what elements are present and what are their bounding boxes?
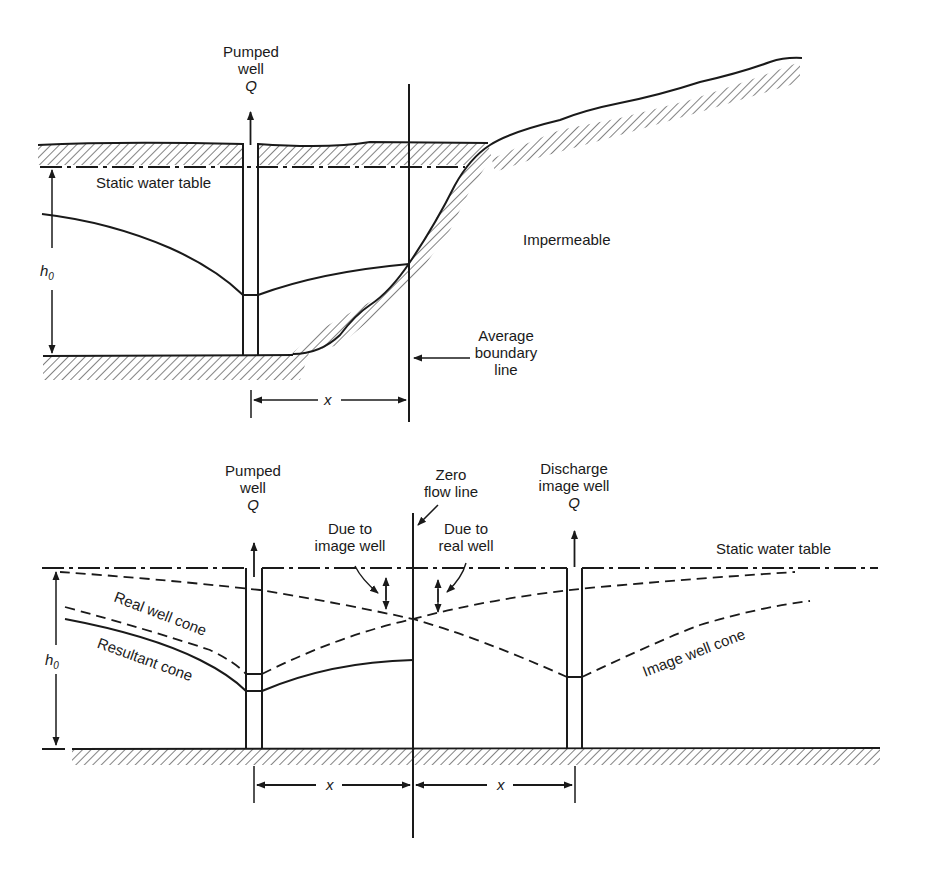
h-subscript: 0 [48,271,54,282]
label-line: Pumped [220,462,286,479]
hill-hatch [290,62,800,355]
discharge-q: Q [220,496,286,513]
top-pumped-well-label: Pumped well Q [218,43,284,94]
due-to-image-well-label: Due to image well [305,520,395,554]
discharge-q: Q [218,77,284,94]
label-line: well [218,60,284,77]
label-line: image well [532,477,616,494]
label-line: Due to [305,520,395,537]
top-static-water-table-label: Static water table [96,174,211,191]
label-line: image well [305,537,395,554]
real-well-cone-right [262,572,795,674]
resultant-cone-right [262,660,413,691]
top-x-distance-label: x [324,391,332,408]
label-line: well [220,479,286,496]
ground-surface-left [38,143,243,165]
label-line: Discharge [532,460,616,477]
average-boundary-line-label: Average boundary line [470,327,542,378]
drawdown-left [42,214,243,295]
label-line: Due to [428,520,504,537]
discharge-image-well-label: Discharge image well Q [532,460,616,511]
bottom-pumped-well-label: Pumped well Q [220,462,286,513]
top-h0-label: h0 [40,262,54,285]
label-line: Average [470,327,542,344]
label-line: flow line [418,483,484,500]
bottom-static-water-table-label: Static water table [716,540,831,557]
top-panel [38,58,802,422]
well-boundary-diagram [0,0,938,875]
label-line: Zero [418,466,484,483]
label-line: boundary [470,344,542,361]
aquifer-base-bottom [72,749,880,765]
discharge-q: Q [532,494,616,511]
label-line: Pumped [218,43,284,60]
image-well-cone-right [582,601,810,677]
zero-flow-line-label: Zero flow line [418,466,484,500]
label-line: line [470,361,542,378]
label-line: real well [428,537,504,554]
h-subscript: 0 [53,660,59,671]
impermeable-label: Impermeable [523,231,611,248]
bottom-h0-label: h0 [45,651,59,674]
bottom-x-left-label: x [326,776,334,793]
bottom-x-right-label: x [497,776,505,793]
due-to-real-well-label: Due to real well [428,520,504,554]
